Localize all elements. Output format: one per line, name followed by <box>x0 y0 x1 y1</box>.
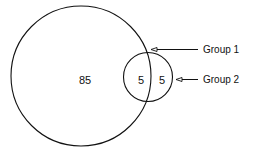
group2-pointer-arrow <box>176 78 198 82</box>
group2-circle <box>124 53 173 102</box>
group2-only-count: 5 <box>159 74 165 86</box>
overlap-count: 5 <box>138 74 144 86</box>
group2-label: Group 2 <box>203 74 240 85</box>
group1-only-count: 85 <box>79 74 91 86</box>
group1-pointer-arrow <box>151 48 198 52</box>
venn-diagram: 85 5 5 Group 1 Group 2 <box>0 0 255 152</box>
group1-label: Group 1 <box>203 44 240 55</box>
